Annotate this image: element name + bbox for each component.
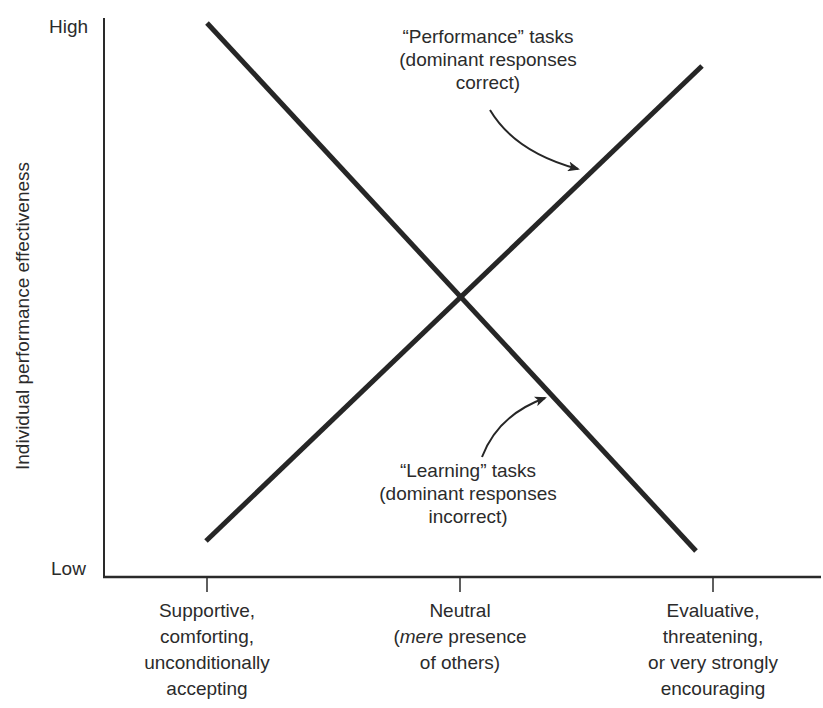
x-label-evaluative-line3: or very strongly bbox=[613, 650, 813, 676]
learning-annotation: “Learning” tasks (dominant responses inc… bbox=[348, 459, 588, 528]
x-label-neutral-line1: Neutral bbox=[370, 598, 550, 624]
x-label-evaluative-line4: encouraging bbox=[613, 676, 813, 702]
x-label-neutral: Neutral (mere presence of others) bbox=[370, 598, 550, 676]
y-low-label: Low bbox=[51, 558, 86, 580]
x-label-neutral-line2: (mere presence bbox=[370, 624, 550, 650]
performance-annotation-line1: “Performance” tasks bbox=[368, 25, 608, 48]
x-label-supportive-line4: accepting bbox=[117, 676, 297, 702]
x-label-supportive-line3: unconditionally bbox=[117, 650, 297, 676]
performance-annotation-line3: correct) bbox=[368, 71, 608, 94]
performance-annotation: “Performance” tasks (dominant responses … bbox=[368, 25, 608, 94]
x-label-evaluative: Evaluative, threatening, or very strongl… bbox=[613, 598, 813, 702]
mere-italic: mere bbox=[400, 626, 443, 647]
learning-annotation-line2: (dominant responses bbox=[348, 482, 588, 505]
performance-arrow bbox=[490, 110, 578, 169]
x-label-evaluative-line2: threatening, bbox=[613, 624, 813, 650]
presence-text: presence bbox=[443, 626, 526, 647]
x-label-neutral-line3: of others) bbox=[370, 650, 550, 676]
y-axis-title: Individual performance effectiveness bbox=[12, 162, 34, 470]
performance-annotation-line2: (dominant responses bbox=[368, 48, 608, 71]
x-label-supportive: Supportive, comforting, unconditionally … bbox=[117, 598, 297, 702]
x-label-supportive-line2: comforting, bbox=[117, 624, 297, 650]
y-high-label: High bbox=[49, 16, 88, 38]
learning-arrow bbox=[482, 398, 545, 457]
learning-annotation-line3: incorrect) bbox=[348, 505, 588, 528]
x-label-evaluative-line1: Evaluative, bbox=[613, 598, 813, 624]
x-label-supportive-line1: Supportive, bbox=[117, 598, 297, 624]
learning-annotation-line1: “Learning” tasks bbox=[348, 459, 588, 482]
